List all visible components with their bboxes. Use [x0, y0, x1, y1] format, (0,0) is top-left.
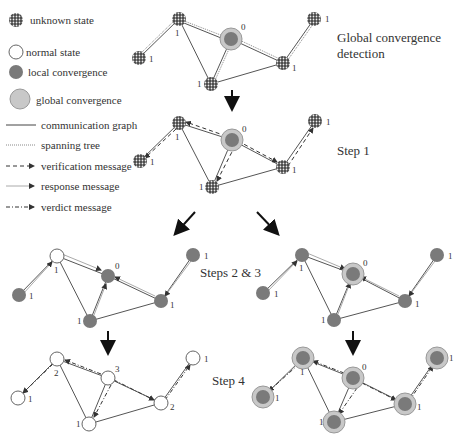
legend-communication-graph: communication graph [41, 120, 137, 131]
legend-global-convergence: global convergence [36, 95, 122, 106]
svg-text:1: 1 [29, 291, 34, 301]
svg-text:1: 1 [175, 28, 180, 38]
caption-step1: Step 1 [337, 143, 370, 159]
svg-text:1: 1 [77, 316, 82, 326]
caption-global-detection: Global convergence detection [337, 30, 441, 63]
legend-normal-state: normal state [26, 47, 80, 58]
svg-text:0: 0 [115, 261, 120, 271]
normal-state-icon [9, 45, 23, 59]
svg-text:2: 2 [54, 368, 59, 378]
global-convergence-icon [10, 89, 30, 109]
svg-text:1: 1 [197, 79, 202, 89]
svg-text:1: 1 [275, 393, 280, 403]
svg-text:1: 1 [149, 54, 154, 64]
svg-text:1: 1 [292, 63, 297, 73]
svg-text:1: 1 [415, 299, 420, 309]
panel-global-detection [137, 18, 316, 85]
caption-steps23: Steps 2 & 3 [200, 265, 261, 281]
down-left-arrow-icon [176, 212, 195, 233]
svg-text:1: 1 [448, 251, 453, 261]
svg-text:1: 1 [417, 402, 422, 412]
legend-local-convergence: local convergence [28, 67, 108, 78]
svg-text:1: 1 [54, 265, 59, 275]
legend-unknown-state: unknown state [30, 15, 94, 26]
legend [6, 13, 36, 207]
svg-text:2: 2 [170, 402, 175, 412]
svg-text:1: 1 [150, 157, 155, 167]
caption-step4: Step 4 [212, 373, 245, 389]
svg-text:0: 0 [363, 258, 368, 268]
svg-text:1: 1 [199, 182, 204, 192]
svg-text:1: 1 [299, 263, 304, 273]
svg-text:1: 1 [319, 417, 324, 427]
down-right-arrow-icon [257, 212, 277, 233]
convergence-diagram: 1 0 1 1 1 1 1 0 1 1 1 1 1 0 1 1 1 1 1 0 … [0, 0, 460, 441]
panel-step4-left [18, 358, 193, 424]
legend-verification-message: verification message [41, 161, 132, 172]
local-convergence-icon [9, 65, 23, 79]
svg-text:1: 1 [204, 354, 209, 364]
svg-text:0: 0 [362, 362, 367, 372]
legend-verdict-message: verdict message [41, 202, 112, 213]
svg-text:1: 1 [321, 315, 326, 325]
legend-spanning-tree: spanning tree [41, 140, 100, 151]
svg-text:3: 3 [115, 364, 120, 374]
svg-text:1: 1 [204, 251, 209, 261]
svg-text:1: 1 [274, 289, 279, 299]
unknown-state-icon [9, 13, 23, 27]
legend-response-message: response message [41, 181, 120, 192]
svg-text:0: 0 [242, 124, 247, 134]
svg-text:1: 1 [326, 117, 331, 127]
svg-text:1: 1 [76, 419, 81, 429]
svg-text:1: 1 [449, 353, 454, 363]
svg-text:0: 0 [241, 22, 246, 32]
svg-text:1: 1 [292, 165, 297, 175]
svg-text:1: 1 [325, 14, 330, 24]
svg-text:1: 1 [300, 367, 305, 377]
svg-text:1: 1 [175, 132, 180, 142]
svg-text:1: 1 [28, 394, 33, 404]
panel-steps23-left [19, 254, 193, 321]
svg-text:1: 1 [170, 300, 175, 310]
